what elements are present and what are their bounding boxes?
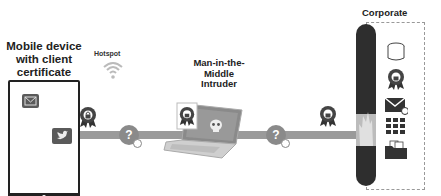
certificate-ribbon-icon [318, 105, 338, 127]
mobile-device-label: Mobile device with client certificate [2, 40, 86, 79]
twitter-bird-icon [52, 128, 72, 144]
corporate-label: Corporate [362, 8, 407, 19]
app-grid-icon [386, 118, 406, 136]
certificate-ribbon-icon [386, 68, 406, 90]
mobile-tablet [8, 80, 80, 196]
lock-badge-icon [281, 139, 290, 148]
folder-icon [384, 140, 408, 160]
firewall-pillar-icon [356, 24, 376, 186]
home-button [42, 195, 46, 196]
wifi-icon [102, 60, 124, 80]
database-icon [386, 42, 406, 62]
mail-icon [22, 94, 39, 108]
hotspot-label: Hotspot [94, 50, 120, 58]
certificate-ribbon-icon [178, 105, 196, 127]
mail-icon [384, 97, 408, 115]
mitm-label: Man-in-the-Middle Intruder [186, 58, 252, 90]
lock-badge-icon [133, 139, 142, 148]
fire-icon [356, 110, 376, 146]
certificate-ribbon-icon [78, 106, 98, 128]
laptop-with-skull-icon [160, 100, 260, 162]
